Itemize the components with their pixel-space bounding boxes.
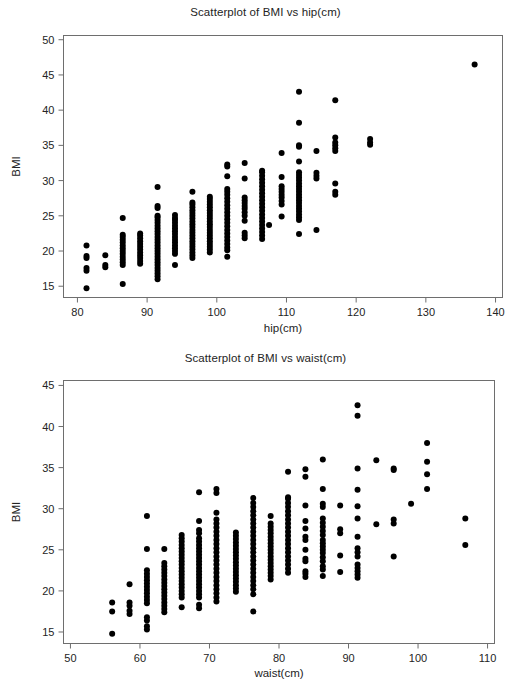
- data-point: [355, 534, 361, 540]
- data-point: [279, 150, 285, 156]
- data-point: [266, 222, 272, 228]
- data-point: [127, 599, 133, 605]
- x-tick-label: 50: [64, 652, 76, 664]
- data-point: [250, 608, 256, 614]
- data-point: [355, 465, 361, 471]
- y-tick-label: 30: [42, 175, 54, 187]
- x-tick-label: 110: [278, 306, 296, 318]
- data-point: [332, 180, 338, 186]
- data-point: [137, 230, 143, 236]
- y-tick-label: 50: [42, 34, 54, 46]
- data-point: [424, 471, 430, 477]
- data-point: [109, 631, 115, 637]
- y-tick-label: 35: [42, 139, 54, 151]
- data-point: [242, 175, 248, 181]
- data-point: [84, 253, 90, 259]
- data-point: [161, 560, 167, 566]
- data-point: [302, 534, 308, 540]
- y-tick-label: 15: [42, 626, 54, 638]
- data-point: [320, 501, 326, 507]
- data-point: [355, 545, 361, 551]
- data-point: [462, 542, 468, 548]
- data-point: [224, 254, 230, 260]
- y-tick-label: 15: [42, 280, 54, 292]
- data-point: [207, 194, 213, 200]
- data-point: [313, 227, 319, 233]
- data-point: [233, 530, 239, 536]
- data-point: [302, 466, 308, 472]
- data-point: [84, 242, 90, 248]
- data-point: [268, 513, 274, 519]
- data-point: [109, 599, 115, 605]
- data-point: [367, 136, 373, 142]
- data-point: [296, 142, 302, 148]
- y-axis-title: BMI: [10, 156, 22, 176]
- data-point: [179, 532, 185, 538]
- data-point: [224, 173, 230, 179]
- y-tick-label: 35: [42, 462, 54, 474]
- data-point: [373, 457, 379, 463]
- y-tick-label: 40: [42, 104, 54, 116]
- data-point: [320, 456, 326, 462]
- data-point: [332, 135, 338, 141]
- data-point: [424, 486, 430, 492]
- data-point: [320, 486, 326, 492]
- scatterplot-bmi-vs-waist: Scatterplot of BMI vs waist(cm) 50607080…: [0, 345, 531, 693]
- x-tick-label: 140: [486, 306, 504, 318]
- data-point: [144, 513, 150, 519]
- data-point: [242, 194, 248, 200]
- x-tick-label: 60: [134, 652, 146, 664]
- data-point: [408, 501, 414, 507]
- data-point: [172, 262, 178, 268]
- x-axis-title: waist(cm): [253, 667, 303, 679]
- data-point: [144, 546, 150, 552]
- plot-area-waist: 506070809010011015202530354045waist(cm)B…: [0, 345, 531, 693]
- data-point: [332, 97, 338, 103]
- scatterplot-bmi-vs-hip: Scatterplot of BMI vs hip(cm) 8090100110…: [0, 0, 531, 348]
- data-point: [109, 608, 115, 614]
- data-point: [279, 183, 285, 189]
- data-point: [102, 252, 108, 258]
- data-point: [337, 553, 343, 559]
- plot-frame: [64, 36, 503, 298]
- data-point: [120, 232, 126, 238]
- data-point: [355, 503, 361, 509]
- data-point: [355, 516, 361, 522]
- data-point: [355, 487, 361, 493]
- data-point: [355, 562, 361, 568]
- x-tick-label: 90: [141, 306, 153, 318]
- data-point: [391, 553, 397, 559]
- data-point: [144, 614, 150, 620]
- data-point: [242, 230, 248, 236]
- data-point: [302, 502, 308, 508]
- data-point: [296, 89, 302, 95]
- y-tick-label: 25: [42, 210, 54, 222]
- data-point: [391, 516, 397, 522]
- data-point: [144, 623, 150, 629]
- data-point: [355, 402, 361, 408]
- data-point: [279, 214, 285, 220]
- data-point: [355, 413, 361, 419]
- data-point: [268, 521, 274, 527]
- x-tick-label: 100: [409, 652, 427, 664]
- data-point: [296, 159, 302, 165]
- data-point: [462, 516, 468, 522]
- data-point: [302, 474, 308, 480]
- data-point: [189, 189, 195, 195]
- data-point: [172, 212, 178, 218]
- data-point: [302, 556, 308, 562]
- data-point: [337, 502, 343, 508]
- x-tick-label: 80: [71, 306, 83, 318]
- data-point: [259, 168, 265, 174]
- data-point: [84, 265, 90, 271]
- data-point: [213, 486, 219, 492]
- data-point: [313, 170, 319, 176]
- data-point: [179, 604, 185, 610]
- data-point: [224, 161, 230, 167]
- data-point: [196, 518, 202, 524]
- data-point: [302, 525, 308, 531]
- data-point: [213, 516, 219, 522]
- y-tick-label: 30: [42, 503, 54, 515]
- y-tick-label: 20: [42, 245, 54, 257]
- data-point: [279, 174, 285, 180]
